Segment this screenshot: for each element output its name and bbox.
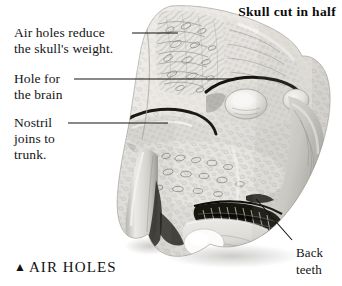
caption-text: AIR HOLES (29, 259, 117, 275)
label-air-holes-line2: the skull's weight. (14, 41, 113, 57)
figure-title: Skull cut in half (238, 4, 336, 20)
label-nostril-line2: joins to (14, 131, 55, 147)
label-hole-for-brain-line1: Hole for (14, 71, 63, 87)
label-air-holes-line1: Air holes reduce (14, 25, 113, 41)
label-nostril-line3: trunk. (14, 147, 55, 163)
label-nostril-line1: Nostril (14, 115, 55, 131)
skull-diagram-figure: Skull cut in half Air holes reduce the s… (0, 0, 342, 286)
label-hole-for-brain: Hole for the brain (14, 71, 63, 103)
label-back-teeth: Back teeth (296, 244, 323, 278)
caption-triangle-icon: ▲ (14, 260, 26, 274)
label-back-teeth-line1: Back (296, 244, 323, 261)
label-hole-for-brain-line2: the brain (14, 87, 63, 103)
air-hole-honeycomb-bone (156, 10, 230, 94)
label-back-teeth-line2: teeth (296, 261, 323, 278)
label-nostril: Nostril joins to trunk. (14, 115, 55, 163)
figure-caption: ▲AIR HOLES (14, 259, 117, 276)
label-air-holes: Air holes reduce the skull's weight. (14, 25, 113, 57)
